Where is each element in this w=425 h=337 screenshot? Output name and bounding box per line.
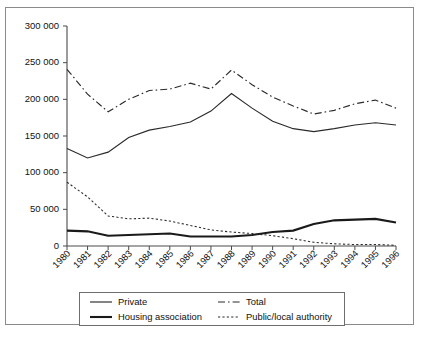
x-tick-label: 1985: [154, 248, 176, 270]
series-line-private: [67, 93, 396, 158]
legend-label-housing-association: Housing association: [118, 311, 202, 322]
chart-legend: Private Total Housing association Public…: [79, 292, 345, 326]
legend-item-total: Total: [218, 296, 356, 307]
y-tick-label: 150 000: [25, 130, 59, 141]
x-tick-label: 1991: [277, 248, 299, 270]
chart-canvas: 300 000250 000200 000150 000100 00050 00…: [0, 0, 425, 337]
line-chart: 300 000250 000200 000150 000100 00050 00…: [0, 0, 425, 337]
legend-swatch-total: [218, 297, 240, 307]
series-line-housing-association: [67, 219, 396, 237]
legend-label-public-local-authority: Public/local authority: [246, 311, 332, 322]
x-tick-label: 1989: [236, 248, 258, 270]
series-layer: [67, 69, 396, 245]
x-tick-label: 1994: [339, 248, 361, 270]
y-tick-label: 0: [54, 240, 59, 251]
legend-label-private: Private: [118, 296, 147, 307]
legend-swatch-private: [90, 297, 112, 307]
y-axis-ticks: 300 000250 000200 000150 000100 00050 00…: [25, 20, 67, 251]
x-tick-label: 1996: [380, 248, 402, 270]
legend-item-housing-association: Housing association: [90, 311, 218, 322]
x-axis-ticks: 1980198119821983198419851986198719881989…: [51, 246, 402, 270]
y-tick-label: 100 000: [25, 166, 59, 177]
x-tick-label: 1988: [215, 248, 237, 270]
legend-swatch-public-local-authority: [218, 312, 240, 322]
y-tick-label: 250 000: [25, 56, 59, 67]
x-tick-label: 1981: [71, 248, 93, 270]
x-tick-label: 1984: [133, 248, 155, 270]
x-tick-label: 1980: [51, 248, 73, 270]
x-tick-label: 1990: [256, 248, 278, 270]
x-tick-label: 1993: [318, 248, 340, 270]
x-tick-label: 1995: [359, 248, 381, 270]
x-tick-label: 1987: [195, 248, 217, 270]
x-tick-label: 1983: [112, 248, 134, 270]
y-tick-label: 50 000: [30, 203, 59, 214]
x-tick-label: 1982: [92, 248, 114, 270]
legend-label-total: Total: [246, 296, 266, 307]
legend-item-private: Private: [90, 296, 218, 307]
x-tick-label: 1992: [297, 248, 319, 270]
legend-swatch-housing-association: [90, 312, 112, 322]
y-tick-label: 300 000: [25, 20, 59, 31]
y-tick-label: 200 000: [25, 93, 59, 104]
legend-item-public-local-authority: Public/local authority: [218, 311, 356, 322]
x-tick-label: 1986: [174, 248, 196, 270]
series-line-total: [67, 69, 396, 114]
